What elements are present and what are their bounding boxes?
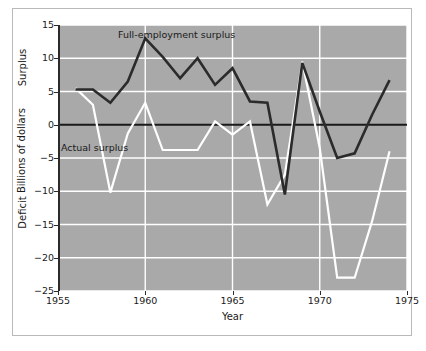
x-tick-label: 1955	[33, 295, 83, 306]
x-tick-mark	[407, 291, 408, 295]
y-tick-label: 15	[20, 20, 54, 30]
y-tick-mark	[54, 258, 58, 259]
annotation-actual-surplus: Actual surplus	[61, 142, 128, 153]
y-tick-mark	[54, 58, 58, 59]
x-tick-mark	[233, 291, 234, 295]
x-tick-label: 1965	[208, 295, 258, 306]
y-tick-label: −5	[20, 153, 54, 163]
y-tick-label: 0	[20, 120, 54, 130]
y-tick-mark	[54, 125, 58, 126]
x-tick-label: 1960	[120, 295, 170, 306]
plot-area	[58, 25, 407, 291]
y-tick-mark	[54, 158, 58, 159]
x-tick-label: 1975	[382, 295, 426, 306]
y-tick-label: −15	[20, 220, 54, 230]
y-tick-label: −20	[20, 253, 54, 263]
y-tick-mark	[54, 191, 58, 192]
figure-container: Billions of dollars Surplus Deficit Full…	[0, 0, 426, 351]
x-tick-mark	[58, 291, 59, 295]
gridlines-group	[58, 25, 407, 291]
x-tick-mark	[145, 291, 146, 295]
y-tick-label: −10	[20, 186, 54, 196]
x-tick-label: 1970	[295, 295, 345, 306]
y-tick-mark	[54, 25, 58, 26]
y-tick-mark	[54, 225, 58, 226]
annotation-full-employment-surplus: Full-employment surplus	[118, 29, 235, 40]
x-axis-title: Year	[58, 311, 407, 322]
chart-svg	[58, 25, 407, 291]
x-tick-mark	[320, 291, 321, 295]
y-tick-label: 10	[20, 53, 54, 63]
y-tick-mark	[54, 92, 58, 93]
y-tick-label: 5	[20, 87, 54, 97]
